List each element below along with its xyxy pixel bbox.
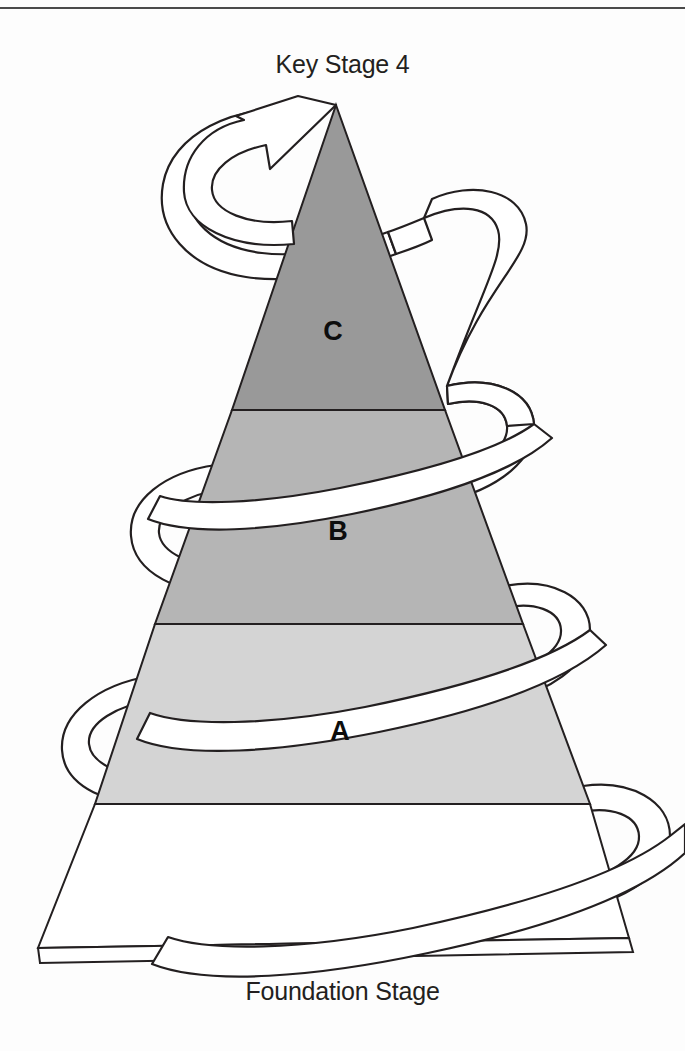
diagram-root: Key Stage 4 xyxy=(0,0,685,1051)
band-base-shape xyxy=(38,804,629,948)
pyramid-spiral-graphic: C B A xyxy=(0,0,685,1051)
band-label-a: A xyxy=(330,716,350,746)
ribbon-top-right-curl xyxy=(424,190,534,426)
band-label-b: B xyxy=(328,516,348,546)
band-label-c: C xyxy=(323,316,343,346)
foundation-stage-label: Foundation Stage xyxy=(0,977,685,1006)
ribbon-front-sweep-0 xyxy=(388,218,432,254)
